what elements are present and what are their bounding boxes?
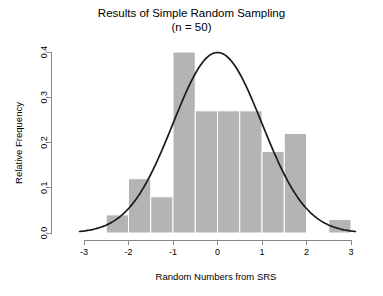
y-axis: 0.00.10.20.30.4: [39, 46, 52, 240]
x-tick-label: -3: [80, 247, 88, 257]
x-axis-line: [84, 241, 351, 246]
x-tick-labels: -3-2-10123: [80, 247, 354, 257]
x-tick-label: 0: [215, 247, 220, 257]
y-axis-title: Relative Frequency: [13, 102, 24, 184]
histogram-bar: [284, 133, 306, 233]
y-tick-label: 0.4: [39, 46, 49, 59]
x-tick-label: 3: [348, 247, 353, 257]
x-tick-label: 1: [259, 247, 264, 257]
plot-area: -3-2-10123 0.00.10.20.30.4 Random Number…: [0, 0, 383, 296]
y-tick-label: 0.0: [39, 227, 49, 240]
y-tick-label: 0.2: [39, 136, 49, 149]
histogram-bar: [240, 111, 262, 233]
histogram-bars: [106, 52, 351, 233]
y-tick-label: 0.3: [39, 91, 49, 104]
histogram-bar: [195, 111, 217, 233]
histogram-bar: [151, 197, 173, 233]
x-axis: -3-2-10123: [80, 241, 354, 258]
chart-figure: Results of Simple Random Sampling (n = 5…: [0, 0, 383, 296]
x-tick-label: -2: [124, 247, 132, 257]
histogram-bar: [218, 111, 240, 233]
x-axis-title: Random Numbers from SRS: [156, 271, 277, 282]
y-tick-label: 0.1: [39, 181, 49, 194]
histogram-bar: [262, 152, 284, 233]
x-tick-label: 2: [304, 247, 309, 257]
y-tick-labels: 0.00.10.20.30.4: [39, 46, 49, 240]
x-tick-label: -1: [169, 247, 177, 257]
